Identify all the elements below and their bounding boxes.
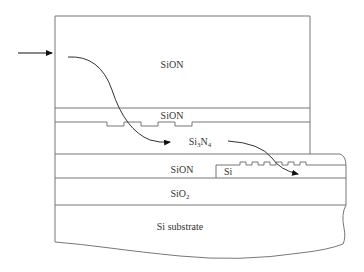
label-si3n4: Si3N4 xyxy=(189,136,212,149)
upper-block-outline xyxy=(55,16,310,242)
label-thin-sion: SiON xyxy=(161,110,184,121)
label-si: Si xyxy=(224,166,233,177)
label-lower-sion: SiON xyxy=(171,164,194,175)
coupling-path-2-arrow xyxy=(228,141,298,174)
lower-block-outline xyxy=(55,154,346,258)
label-substrate: Si substrate xyxy=(157,221,204,232)
si-waveguide-outline xyxy=(216,162,346,178)
layer-stack-diagram: SiON SiON Si3N4 SiON Si SiO2 Si substrat… xyxy=(0,0,364,272)
label-top-sion: SiON xyxy=(161,59,184,70)
label-sio2: SiO2 xyxy=(170,188,190,201)
grating-sion-si3n4 xyxy=(55,122,310,126)
coupling-path-1-arrow xyxy=(68,57,170,142)
